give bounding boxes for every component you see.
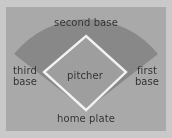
label-home-plate: home plate [0, 114, 172, 125]
label-third-base: third base [2, 66, 48, 87]
baseball-diamond-diagram: second base third base pitcher first bas… [0, 0, 172, 138]
label-first-base: first base [124, 66, 170, 87]
label-second-base: second base [0, 18, 172, 29]
label-pitcher: pitcher [45, 71, 125, 82]
